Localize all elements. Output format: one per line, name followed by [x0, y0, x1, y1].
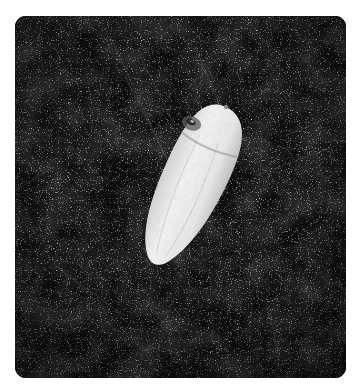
seed-photo-graphic: [15, 16, 346, 378]
photo-alt: Close-up photograph of a pale, elongated…: [15, 16, 16, 17]
photo: Close-up photograph of a pale, elongated…: [15, 16, 346, 378]
